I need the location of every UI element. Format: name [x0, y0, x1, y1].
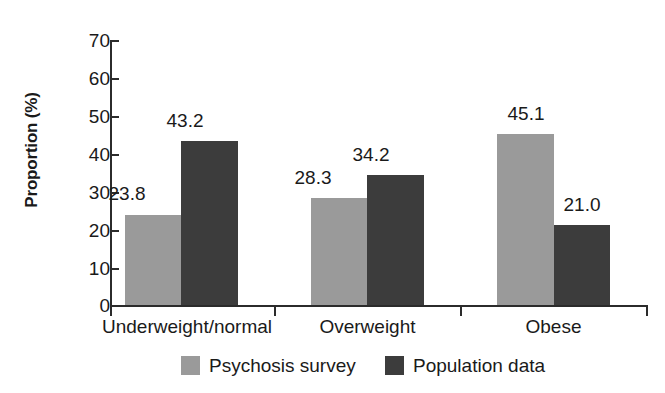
legend-item-population-data: Population data: [385, 356, 545, 375]
bar-overweight-population-data: [367, 175, 424, 305]
bar-chart: Proportion (%) 70 60 50 40 30 20 10 0 23…: [0, 0, 665, 393]
y-tick-label-0: 0: [78, 296, 110, 315]
x-axis-tick-end: [646, 307, 648, 316]
y-tick-label-20: 20: [78, 221, 110, 240]
y-tick-label-60: 60: [78, 69, 110, 88]
legend-label-population-data: Population data: [413, 356, 545, 375]
x-axis-label-overweight: Overweight: [275, 316, 460, 338]
legend-item-psychosis-survey: Psychosis survey: [181, 356, 356, 375]
bar-value-underweight-normal-psychosis-survey: 23.8: [99, 184, 155, 203]
chart-legend: Psychosis survey Population data: [0, 356, 665, 380]
x-axis-label-underweight-normal: Underweight/normal: [92, 316, 282, 338]
y-tick-label-70: 70: [78, 31, 110, 50]
y-tick-mark-40: [112, 154, 119, 156]
legend-swatch-icon-psychosis-survey: [181, 356, 200, 375]
x-axis-label-obese: Obese: [461, 316, 646, 338]
y-axis-title: Proportion (%): [22, 40, 42, 260]
bar-value-obese-psychosis-survey: 45.1: [498, 104, 554, 123]
bar-value-overweight-population-data: 34.2: [343, 145, 399, 164]
bar-overweight-psychosis-survey: [311, 198, 367, 305]
x-axis-tick-2: [460, 307, 462, 316]
y-tick-mark-60: [112, 78, 119, 80]
x-axis-tick-1: [274, 307, 276, 316]
legend-label-psychosis-survey: Psychosis survey: [209, 356, 356, 375]
bar-value-obese-population-data: 21.0: [554, 195, 610, 214]
bar-underweight-normal-population-data: [181, 141, 238, 305]
y-tick-mark-20: [112, 230, 119, 232]
bar-obese-population-data: [554, 225, 610, 305]
y-tick-mark-70: [112, 40, 119, 42]
y-tick-mark-50: [112, 116, 119, 118]
y-tick-label-10: 10: [78, 259, 110, 278]
x-axis-line: [110, 305, 648, 307]
y-tick-label-50: 50: [78, 107, 110, 126]
bar-obese-psychosis-survey: [497, 134, 554, 305]
y-tick-mark-10: [112, 268, 119, 270]
x-axis-tick-start: [110, 307, 112, 316]
bar-value-overweight-psychosis-survey: 28.3: [285, 168, 341, 187]
bar-underweight-normal-psychosis-survey: [125, 215, 181, 305]
y-tick-label-40: 40: [78, 145, 110, 164]
bar-value-underweight-normal-population-data: 43.2: [157, 111, 213, 130]
legend-swatch-icon-population-data: [385, 356, 404, 375]
